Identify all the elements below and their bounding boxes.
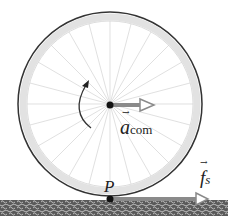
friction-label: fs	[200, 168, 210, 187]
friction-vector-mark: →	[200, 157, 208, 167]
wheel-diagram	[0, 0, 236, 222]
hub-dot	[107, 102, 114, 109]
contact-point-dot	[107, 196, 114, 203]
point-p-label: P	[104, 178, 114, 195]
acceleration-subscript: com	[130, 122, 152, 137]
acceleration-label: acom	[120, 117, 152, 137]
friction-subscript: s	[205, 172, 210, 187]
ground-surface	[0, 200, 228, 216]
acceleration-symbol: a	[120, 116, 130, 138]
